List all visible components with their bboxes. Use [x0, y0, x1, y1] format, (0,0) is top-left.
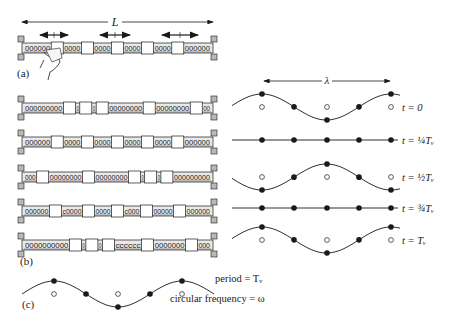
wavelength-label: λ	[324, 74, 330, 86]
equilibrium-position	[260, 175, 265, 180]
mass-block	[81, 136, 93, 148]
spring-coil: 0000	[155, 139, 172, 146]
panel-c-label: (c)	[22, 298, 35, 311]
mass-position	[388, 137, 394, 143]
end-stop	[18, 183, 24, 189]
equilibrium-position	[389, 175, 394, 180]
snapshot-1: t = ¼Tᵥ	[232, 135, 434, 146]
spring-coil: 0000	[96, 208, 111, 215]
mass-block	[102, 239, 114, 251]
mass-block	[185, 239, 197, 251]
mass-position	[324, 250, 330, 256]
mass-block	[49, 205, 61, 217]
mass-position	[388, 91, 394, 97]
wave-snapshots: t = 0t = ¼Tᵥt = ½Tᵥt = ¾Tᵥt = Tᵥ	[232, 91, 434, 256]
time-label: t = ½Tᵥ	[402, 172, 434, 183]
spring-coil: 000000000	[25, 105, 63, 112]
equilibrium-position	[52, 292, 57, 297]
spring-coil: 0	[99, 242, 102, 249]
mass-position	[388, 205, 394, 211]
spring-coil: 0000000	[155, 242, 185, 249]
rail-b-2: 0000000000000000000000000000	[18, 130, 217, 154]
end-stop	[18, 217, 24, 223]
spring-coil: 0000	[125, 139, 142, 146]
spring-coil: 0	[141, 174, 143, 181]
end-stop	[211, 130, 217, 136]
snapshot-2: t = ½Tᵥ	[232, 161, 434, 193]
mass-block	[128, 171, 140, 183]
mass-block	[80, 102, 92, 114]
mass-block	[37, 171, 49, 183]
end-stop	[211, 233, 217, 239]
mass-position	[291, 137, 297, 143]
spring-coil: 00	[203, 105, 210, 112]
mass-block	[172, 42, 184, 54]
mass-position	[388, 224, 394, 230]
end-stop	[211, 165, 217, 171]
equilibrium-position	[260, 105, 265, 110]
spring-coil: 0000	[94, 45, 111, 52]
oscillation-arrows	[40, 32, 198, 38]
mass-position	[291, 174, 297, 180]
spring-coil: 00000000	[109, 105, 142, 112]
mass-block	[83, 205, 95, 217]
time-label: t = Tᵥ	[402, 235, 426, 246]
spring-coil: c000	[125, 208, 140, 215]
mass-position	[259, 91, 265, 97]
mass-block	[140, 205, 152, 217]
mass-position	[356, 137, 362, 143]
mass-block	[96, 102, 108, 114]
mass-position	[259, 137, 265, 143]
mass-position	[147, 291, 153, 297]
end-stop	[211, 148, 217, 154]
snapshot-0: t = 0	[232, 91, 423, 123]
mass-block	[145, 171, 157, 183]
end-stop	[18, 165, 24, 171]
rail-a-track: 0000000000000000000000000000	[18, 36, 217, 60]
rail-a: 0000000000000000000000000000	[18, 36, 217, 60]
spring-coil: 0000	[64, 45, 81, 52]
end-stop	[18, 54, 24, 60]
end-stop	[211, 36, 217, 42]
spring-coil: 00000000	[156, 105, 189, 112]
mass-block	[142, 42, 154, 54]
time-label: t = ¾Tᵥ	[402, 203, 434, 214]
snapshot-4: t = Tᵥ	[232, 224, 426, 256]
spring-coil: 00000000	[96, 174, 128, 181]
wave-curve	[232, 94, 400, 120]
spring-coil: 000000	[25, 208, 49, 215]
spring-coil: 0	[93, 105, 96, 112]
mass-position	[83, 291, 89, 297]
mass-position	[291, 104, 297, 110]
mass-block	[81, 42, 93, 54]
spring-coil: 0	[158, 174, 160, 181]
end-stop	[211, 54, 217, 60]
panel-a: L 0000000000000000000000000000 (a)	[17, 14, 217, 80]
mass-position	[259, 187, 265, 193]
end-stop	[18, 148, 24, 154]
end-stop	[211, 114, 217, 120]
mass-block	[190, 102, 202, 114]
mass-position	[356, 104, 362, 110]
spring-coil: 000000	[185, 45, 211, 52]
mass-block	[142, 239, 154, 251]
oscillation-diagram: L 0000000000000000000000000000 (a) 00000…	[0, 0, 454, 331]
time-label: t = ¼Tᵥ	[402, 135, 434, 146]
spring-coil: 000	[198, 242, 210, 249]
mass-block	[83, 171, 95, 183]
mass-block	[112, 205, 124, 217]
equilibrium-position	[260, 238, 265, 243]
mass-block	[142, 136, 154, 148]
end-stop	[211, 183, 217, 189]
rail-b-4: 000000c00000000c00000000000000	[18, 199, 217, 223]
mass-position	[324, 137, 330, 143]
end-stop	[211, 96, 217, 102]
mass-position	[179, 278, 185, 284]
end-stop	[18, 233, 24, 239]
mass-block	[143, 102, 155, 114]
end-stop	[18, 199, 24, 205]
time-label: t = 0	[402, 102, 423, 113]
equilibrium-position	[325, 105, 330, 110]
wave-curve	[232, 227, 400, 253]
mass-position	[291, 205, 297, 211]
